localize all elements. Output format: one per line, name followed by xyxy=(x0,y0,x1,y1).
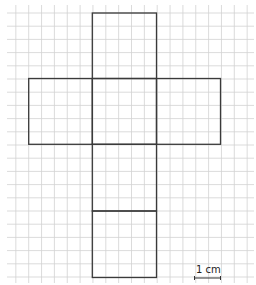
bottom-face xyxy=(92,211,156,278)
centre-face xyxy=(92,79,156,145)
cuboid-net-diagram xyxy=(0,0,256,285)
scale-bar-label: 1 cm xyxy=(196,265,221,275)
left-face xyxy=(29,79,93,145)
lower-face xyxy=(92,144,156,211)
top-face xyxy=(92,13,156,79)
right-face xyxy=(157,79,221,145)
